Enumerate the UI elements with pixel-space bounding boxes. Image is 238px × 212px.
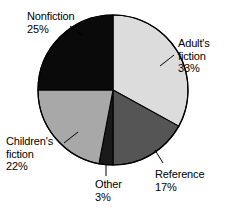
pie-label-reference: Reference 17% bbox=[155, 168, 204, 193]
pie-label-reference-name: Reference bbox=[155, 168, 204, 181]
pie-label-adults-fiction-value: 33% bbox=[178, 62, 210, 75]
pie-label-other: Other 3% bbox=[95, 178, 122, 203]
leader-line-reference bbox=[155, 150, 163, 163]
pie-label-reference-value: 17% bbox=[155, 181, 204, 194]
pie-label-nonfiction: Nonfiction 25% bbox=[27, 10, 74, 35]
pie-label-adults-fiction-name1: Adult's bbox=[178, 37, 210, 50]
pie-chart: Nonfiction 25% Adult's fiction 33% Refer… bbox=[0, 0, 238, 212]
pie-label-childrens-fiction-name2: fiction bbox=[6, 148, 53, 161]
pie-label-other-name: Other bbox=[95, 178, 122, 191]
pie-label-childrens-fiction: Children's fiction 22% bbox=[6, 135, 53, 173]
pie-label-other-value: 3% bbox=[95, 191, 122, 204]
pie-label-childrens-fiction-value: 22% bbox=[6, 160, 53, 173]
pie-label-nonfiction-value: 25% bbox=[27, 23, 74, 36]
pie-label-nonfiction-name: Nonfiction bbox=[27, 10, 74, 23]
pie-label-adults-fiction-name2: fiction bbox=[178, 50, 210, 63]
pie-label-childrens-fiction-name1: Children's bbox=[6, 135, 53, 148]
pie-label-adults-fiction: Adult's fiction 33% bbox=[178, 37, 210, 75]
